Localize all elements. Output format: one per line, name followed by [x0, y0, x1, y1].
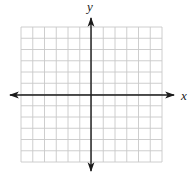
coordinate-plane: x y — [0, 0, 195, 172]
y-axis-label: y — [85, 0, 93, 14]
x-axis-label: x — [180, 88, 187, 103]
